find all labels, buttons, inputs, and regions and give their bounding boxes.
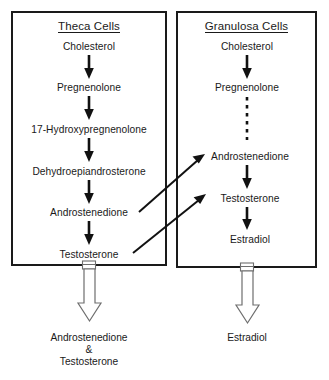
theca-step-testosterone: Testosterone (60, 249, 119, 260)
granulosa-step-estradiol: Estradiol (230, 234, 270, 245)
theca-output-line-3: Testosterone (50, 356, 127, 368)
theca-step-pregnenolone: Pregnenolone (57, 82, 121, 93)
theca-step-androstenedione: Androstenedione (50, 207, 128, 218)
granulosa-step-cholesterol: Cholesterol (221, 41, 273, 52)
theca-cells-title: Theca Cells (13, 20, 165, 32)
theca-output-block-arrow (78, 261, 101, 321)
theca-step-cholesterol: Cholesterol (63, 41, 115, 52)
granulosa-step-androstenedione: Androstenedione (211, 151, 289, 162)
granulosa-step-testosterone: Testosterone (221, 193, 280, 204)
granulosa-output-label: Estradiol (227, 332, 267, 344)
granulosa-output-line-1: Estradiol (227, 332, 267, 344)
granulosa-output-block-arrow (236, 263, 259, 323)
theca-output-line-2: & (50, 344, 127, 356)
theca-step-17-hydroxypregnenolone: 17-Hydroxypregnenolone (31, 124, 147, 135)
granulosa-cells-title: Granulosa Cells (178, 20, 315, 32)
theca-output-label: Androstenedione & Testosterone (50, 332, 127, 368)
steroidogenesis-diagram: Theca Cells Cholesterol Pregnenolone 17-… (0, 0, 329, 380)
theca-step-dehydroepiandrosterone: Dehydroepiandrosterone (32, 166, 145, 177)
granulosa-step-pregnenolone: Pregnenolone (215, 82, 279, 93)
granulosa-cells-title-text: Granulosa Cells (205, 20, 288, 33)
theca-cells-title-text: Theca Cells (58, 20, 120, 33)
theca-output-line-1: Androstenedione (50, 332, 127, 344)
